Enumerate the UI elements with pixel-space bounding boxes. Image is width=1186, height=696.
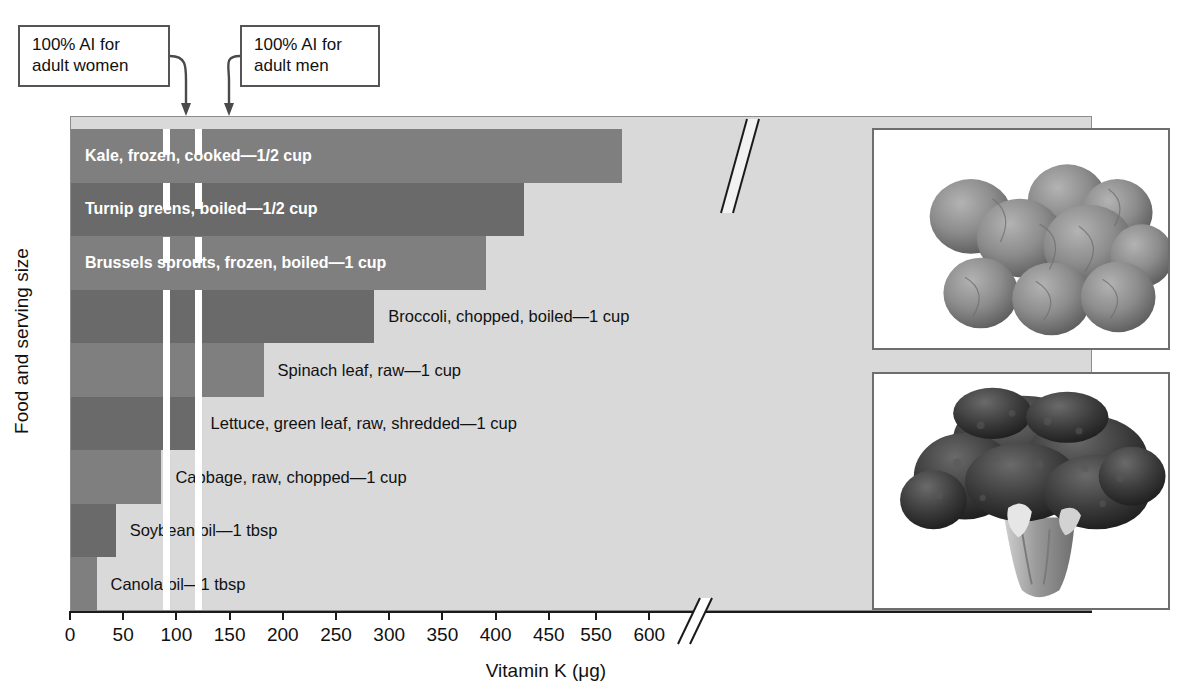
bar-6 <box>71 397 197 451</box>
x-tick-400 <box>495 611 497 620</box>
x-tick-550 <box>595 611 597 620</box>
broccoli-illustration <box>874 374 1168 608</box>
bar-label-5: Spinach leaf, raw—1 cup <box>278 362 461 379</box>
bar-4 <box>71 290 374 344</box>
x-tick-300 <box>388 611 390 620</box>
bar-7 <box>71 450 161 504</box>
reference-line-women <box>163 117 170 610</box>
x-tick-200 <box>282 611 284 620</box>
bar-8 <box>71 504 116 558</box>
x-tick-label-400: 400 <box>480 624 512 646</box>
x-tick-label-50: 50 <box>113 624 134 646</box>
x-tick-label-550: 550 <box>580 624 612 646</box>
x-tick-450 <box>548 611 550 620</box>
y-axis-title: Food and serving size <box>11 221 33 461</box>
bar-label-8: Soybean oil—1 tbsp <box>130 522 278 539</box>
x-tick-label-200: 200 <box>267 624 299 646</box>
x-tick-label-350: 350 <box>427 624 459 646</box>
x-tick-label-300: 300 <box>373 624 405 646</box>
bar-label-7: Cabbage, raw, chopped—1 cup <box>175 469 406 486</box>
x-tick-600 <box>648 611 650 620</box>
callout-ai-women: 100% AI for adult women <box>18 25 170 87</box>
x-tick-150 <box>229 611 231 620</box>
x-tick-250 <box>335 611 337 620</box>
bar-label-9: Canola oil—1 tbsp <box>111 576 246 593</box>
x-tick-100 <box>175 611 177 620</box>
bar-9 <box>71 557 97 611</box>
broccoli-photo <box>872 372 1170 610</box>
x-tick-0 <box>69 611 71 620</box>
x-tick-label-450: 450 <box>533 624 565 646</box>
reference-line-men <box>195 117 202 610</box>
x-axis-title: Vitamin K (μg) <box>0 660 1092 682</box>
x-tick-label-250: 250 <box>320 624 352 646</box>
bar-break-mark <box>711 117 781 227</box>
brussels-sprouts-illustration <box>874 130 1168 348</box>
bar-label-3: Brussels sprouts, frozen, boiled—1 cup <box>85 255 386 271</box>
x-tick-50 <box>122 611 124 620</box>
x-tick-label-100: 100 <box>161 624 193 646</box>
x-axis-line <box>70 611 1092 613</box>
x-tick-label-0: 0 <box>65 624 76 646</box>
bar-label-4: Broccoli, chopped, boiled—1 cup <box>388 308 629 325</box>
bar-label-6: Lettuce, green leaf, raw, shredded—1 cup <box>211 415 517 432</box>
brussels-sprouts-photo <box>872 128 1170 350</box>
x-tick-label-600: 600 <box>633 624 665 646</box>
callout-ai-men: 100% AI for adult men <box>240 25 380 87</box>
x-tick-label-150: 150 <box>214 624 246 646</box>
x-tick-350 <box>441 611 443 620</box>
vitamin-k-bar-chart: 100% AI for adult women 100% AI for adul… <box>0 0 1186 696</box>
